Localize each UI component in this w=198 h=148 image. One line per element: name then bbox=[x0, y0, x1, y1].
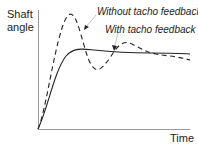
arrowhead-without-tacho bbox=[84, 25, 89, 30]
arrow-with-tacho bbox=[115, 33, 118, 45]
curve-with-tacho bbox=[38, 49, 190, 129]
curve-without-tacho bbox=[38, 14, 190, 129]
arrow-without-tacho bbox=[86, 15, 96, 27]
response-plot bbox=[0, 0, 198, 148]
